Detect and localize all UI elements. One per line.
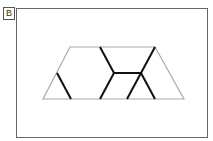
dissection-line xyxy=(100,73,114,99)
dissection-line xyxy=(127,73,141,99)
dissection-lines xyxy=(57,47,155,99)
dissection-line xyxy=(100,47,114,73)
dissection-line xyxy=(57,73,71,99)
dissection-line xyxy=(141,73,155,99)
trapezoid-diagram xyxy=(0,0,213,141)
dissection-line xyxy=(141,47,155,73)
